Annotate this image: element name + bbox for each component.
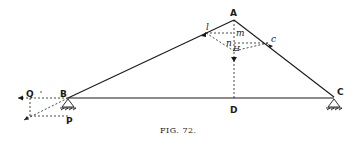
label-D: D [230,105,237,115]
member-BA [68,20,234,98]
truss-diagram: A B C D Q P l m n H c FIG. 72. [0,0,363,142]
label-l: l [206,22,209,32]
label-C: C [337,87,344,97]
figure-caption: FIG. 72. [160,126,197,135]
figure-canvas: A B C D Q P l m n H c FIG. 72. [0,0,363,142]
arrow-left-icon [18,96,23,101]
arrow-l-icon [201,32,206,37]
arrow-down-icon [231,57,237,62]
stray-mark [40,91,41,92]
label-B: B [60,89,67,99]
truss-members [68,20,334,98]
support-C [326,99,342,110]
support-B [60,99,76,110]
dashed-B-resultant [24,98,68,120]
label-H: H [232,44,241,53]
label-Q: Q [26,89,34,99]
member-AC [234,20,334,97]
label-A: A [230,8,237,18]
label-m: m [236,28,245,38]
label-P: P [66,116,73,126]
label-c: c [271,34,276,44]
label-n: n [226,38,232,48]
